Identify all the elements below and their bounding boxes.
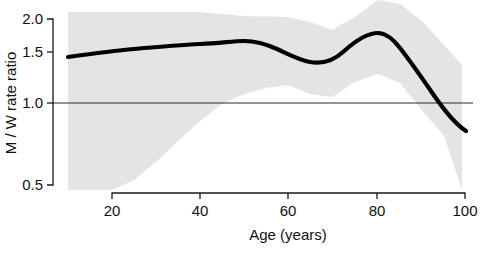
y-tick-label-0_5: 0.5 bbox=[22, 176, 43, 193]
x-tick-label-80: 80 bbox=[369, 202, 386, 219]
x-tick-label-100: 100 bbox=[452, 202, 477, 219]
confidence-band bbox=[68, 0, 462, 190]
x-tick-label-40: 40 bbox=[192, 202, 209, 219]
y-tick-label-1_0: 1.0 bbox=[22, 94, 43, 111]
x-tick-label-20: 20 bbox=[104, 202, 121, 219]
x-tick-label-60: 60 bbox=[280, 202, 297, 219]
x-axis-title: Age (years) bbox=[249, 226, 327, 243]
y-axis-title: M / W rate ratio bbox=[2, 52, 19, 155]
chart-figure: 2.0 1.5 1.0 0.5 M / W rate ratio 20 40 6… bbox=[0, 0, 486, 253]
y-tick-label-2_0: 2.0 bbox=[22, 10, 43, 27]
rate-ratio-line-chart: 2.0 1.5 1.0 0.5 M / W rate ratio 20 40 6… bbox=[0, 0, 486, 253]
y-tick-label-1_5: 1.5 bbox=[22, 43, 43, 60]
y-axis bbox=[47, 19, 53, 185]
